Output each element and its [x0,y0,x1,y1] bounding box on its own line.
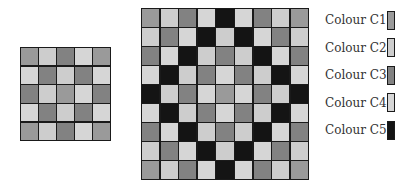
grid-cell-c3 [75,104,92,121]
grid-cell-c3 [291,123,308,141]
grid-cell-c3 [57,123,74,140]
grid-cell-c2 [161,9,178,27]
grid-cell-c1 [216,85,233,103]
grid-cell-c2 [254,66,271,84]
grid-cell-c3 [179,161,196,179]
legend-item-c2: Colour C2 [320,37,410,59]
grid-cell-c4 [142,104,159,122]
grid-cell-c4 [291,66,308,84]
grid-cell-c2 [272,9,289,27]
legend-item-c5: Colour C5 [320,119,410,141]
grid-cell-c3 [254,9,271,27]
grid-cell-c3 [142,123,159,141]
grid-cell-c4 [216,66,233,84]
grid-cell-c4 [21,67,38,84]
grid-cell-c5 [161,104,178,122]
legend-label-c1: Colour C1 [325,13,387,27]
grid-cell-c5 [272,66,289,84]
legend-item-c3: Colour C3 [320,64,410,86]
grid-cell-c2 [291,28,308,46]
grid-cell-c1 [291,161,308,179]
grid-cell-c4 [179,28,196,46]
grid-cell-c4 [75,123,92,140]
grid-cell-c2 [235,47,252,65]
grid-cell-c3 [254,161,271,179]
grid-cell-c5 [216,9,233,27]
grid-cell-c3 [272,142,289,160]
grid-cell-c3 [21,85,38,102]
grid-cell-c3 [235,66,252,84]
grid-cell-c2 [161,161,178,179]
grid-cell-c4 [93,104,110,121]
grid-cell-c2 [216,28,233,46]
grid-cell-c1 [21,123,38,140]
grid-cell-c5 [161,66,178,84]
grid-cell-c1 [291,9,308,27]
grid-cell-c3 [179,9,196,27]
grid-cell-c3 [272,28,289,46]
grid-cell-c3 [57,48,74,65]
grid-cell-c2 [161,85,178,103]
legend-swatch-c3 [387,66,395,85]
grid-cell-c3 [291,47,308,65]
colour-legend: Colour C1 Colour C2 Colour C3 Colour C4 … [320,9,410,147]
legend-swatch-c5 [387,121,395,140]
grid-cell-c3 [75,67,92,84]
grid-cell-c3 [254,85,271,103]
grid-cell-c4 [198,9,215,27]
grid-cell-c2 [272,85,289,103]
grid-cell-c4 [272,123,289,141]
grid-cell-c4 [198,85,215,103]
grid-cell-c2 [39,123,56,140]
legend-swatch-c4 [387,93,395,112]
grid-cell-c2 [142,142,159,160]
grid-cell-c5 [198,28,215,46]
grid-cell-c3 [39,67,56,84]
grid-cell-c1 [21,48,38,65]
grid-cell-c5 [216,161,233,179]
grid-cell-c2 [235,123,252,141]
grid-cell-c5 [254,123,271,141]
grid-cell-c3 [179,85,196,103]
grid-cell-c5 [235,28,252,46]
grid-cell-c3 [198,66,215,84]
grid-cell-c4 [75,85,92,102]
grid-cell-c4 [198,161,215,179]
grid-cell-c1 [57,85,74,102]
grid-cell-c2 [39,48,56,65]
grid-cell-c2 [57,104,74,121]
grid-cell-c5 [179,47,196,65]
grid-cell-c5 [198,142,215,160]
grid-cell-c3 [93,85,110,102]
grid-cell-c3 [142,47,159,65]
grid-cell-c5 [142,85,159,103]
grid-cell-c4 [161,123,178,141]
grid-cell-c4 [179,142,196,160]
grid-cell-c2 [57,67,74,84]
grid-cell-c5 [179,123,196,141]
grid-cell-c2 [142,28,159,46]
legend-swatch-c1 [387,11,395,30]
grid-cell-c3 [161,142,178,160]
grid-cell-c2 [216,142,233,160]
grid-cell-c4 [21,104,38,121]
legend-label-c2: Colour C2 [325,41,387,55]
grid-cell-c4 [254,28,271,46]
grid-cell-c2 [254,104,271,122]
grid-cell-c5 [272,104,289,122]
grid-cell-c4 [254,142,271,160]
grid-cell-c2 [198,123,215,141]
grid-cell-c4 [291,104,308,122]
grid-cell-c4 [235,85,252,103]
grid-cell-c5 [291,85,308,103]
grid-cell-c2 [272,161,289,179]
grid-cell-c1 [142,161,159,179]
grid-cell-c4 [93,67,110,84]
legend-item-c4: Colour C4 [320,92,410,114]
grid-cell-c4 [272,47,289,65]
grid-cell-c5 [235,142,252,160]
grid-cell-c2 [39,85,56,102]
grid-cell-c4 [75,48,92,65]
grid-cell-c2 [198,47,215,65]
legend-label-c3: Colour C3 [325,68,387,82]
